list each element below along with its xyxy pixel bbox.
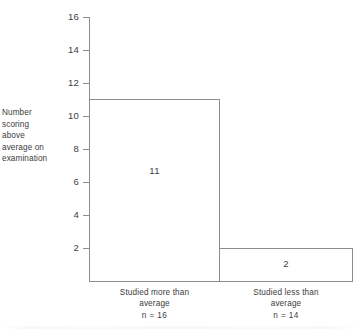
- category-label-2: Studied less than average n = 14: [219, 287, 353, 321]
- y-axis-title-line-5: examination: [2, 153, 76, 165]
- y-axis-title-line-3: above: [2, 130, 76, 142]
- y-tick-label-16: 16: [19, 12, 79, 22]
- y-axis-title: Number scoring above average on examinat…: [2, 107, 76, 165]
- y-axis-title-line-1: Number: [2, 107, 76, 119]
- bar-chart-figure: 16 14 12 10 8 6 4 2 Number scoring above…: [0, 0, 361, 331]
- category-label-2-line-2: average: [271, 299, 302, 308]
- category-label-1-line-2: average: [139, 299, 170, 308]
- y-tick-mark-16: [83, 17, 89, 18]
- bar-studied-more-than-average: [89, 99, 220, 282]
- bar-value-label-1: 11: [89, 165, 220, 176]
- category-label-1-n: n = 16: [89, 310, 220, 321]
- y-axis-title-line-4: average on: [2, 142, 76, 154]
- category-label-1: Studied more than average n = 16: [89, 287, 220, 321]
- y-tick-mark-14: [83, 50, 89, 51]
- y-tick-label-2: 2: [19, 243, 79, 253]
- scan-artifact-line: [0, 326, 361, 329]
- y-tick-label-6: 6: [19, 177, 79, 187]
- category-label-1-line-1: Studied more than: [120, 288, 189, 297]
- category-label-2-line-1: Studied less than: [253, 288, 318, 297]
- category-label-2-n: n = 14: [219, 310, 353, 321]
- y-tick-label-14: 14: [19, 45, 79, 55]
- y-tick-mark-12: [83, 83, 89, 84]
- y-axis-title-line-2: scoring: [2, 119, 76, 131]
- y-tick-label-4: 4: [19, 210, 79, 220]
- y-tick-label-12: 12: [19, 78, 79, 88]
- bar-value-label-2: 2: [219, 258, 353, 269]
